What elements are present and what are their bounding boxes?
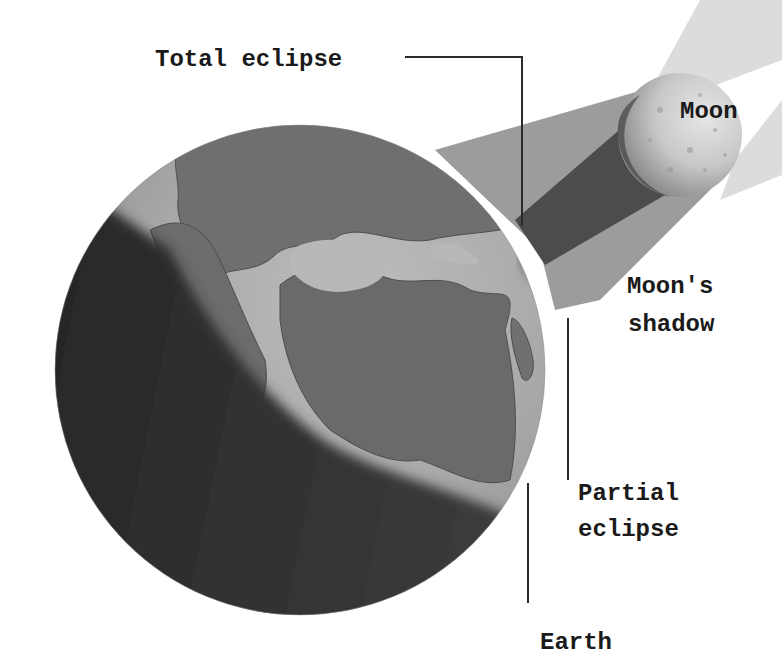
eclipse-diagram: Total eclipse Moon Moon's shadow Partial… — [0, 0, 782, 661]
earth-globe — [40, 118, 560, 640]
total-eclipse-leader-vertical — [521, 56, 523, 226]
moon-sphere — [618, 73, 742, 197]
partial-eclipse-label-line1: Partial — [578, 477, 679, 511]
total-eclipse-label: Total eclipse — [155, 43, 342, 77]
moons-shadow-label-line2: shadow — [628, 308, 714, 342]
earth-leader — [527, 483, 529, 603]
earth-label: Earth — [540, 626, 612, 660]
moon-label: Moon — [680, 95, 738, 129]
moons-shadow-label-line1: Moon's — [627, 270, 713, 304]
partial-eclipse-leader — [567, 318, 569, 480]
partial-eclipse-label-line2: eclipse — [578, 513, 679, 547]
total-eclipse-leader-horizontal — [405, 56, 523, 58]
